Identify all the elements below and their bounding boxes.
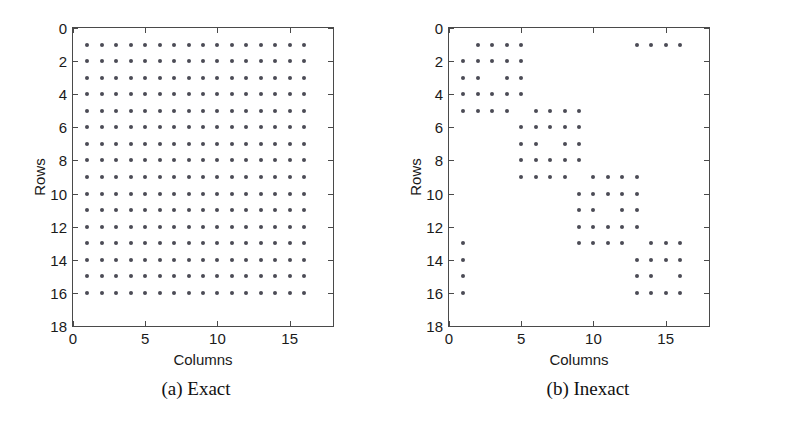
x-tick-label: 15 (281, 331, 298, 346)
sparsity-dot (678, 291, 682, 295)
sparsity-dot (591, 192, 595, 196)
sparsity-dot (244, 258, 248, 262)
sparsity-dot (187, 59, 191, 63)
sparsity-dot (114, 175, 118, 179)
y-tick-mark-right (704, 260, 709, 261)
sparsity-dot (215, 43, 219, 47)
sparsity-dot (201, 109, 205, 113)
sparsity-dot (114, 192, 118, 196)
sparsity-dot (302, 291, 306, 295)
sparsity-dot (461, 76, 465, 80)
sparsity-dot (129, 241, 133, 245)
sparsity-dot (201, 291, 205, 295)
sparsity-dot (606, 175, 610, 179)
y-tick-mark (73, 127, 78, 128)
sparsity-dot (519, 43, 523, 47)
y-tick-mark (449, 94, 454, 95)
sparsity-dot (302, 76, 306, 80)
y-tick-mark-right (704, 160, 709, 161)
y-tick-label: 0 (435, 21, 443, 36)
y-tick-label: 8 (59, 153, 67, 168)
sparsity-dot (288, 142, 292, 146)
sparsity-dot (215, 208, 219, 212)
sparsity-dot (519, 158, 523, 162)
y-tick-label: 2 (59, 54, 67, 69)
sparsity-dot (143, 241, 147, 245)
sparsity-dot (519, 59, 523, 63)
sparsity-dot (230, 225, 234, 229)
sparsity-dot (259, 225, 263, 229)
sparsity-dot (114, 125, 118, 129)
sparsity-dot (172, 175, 176, 179)
y-tick-mark-right (328, 293, 333, 294)
sparsity-dot (534, 109, 538, 113)
y-tick-mark (449, 127, 454, 128)
sparsity-dot (490, 59, 494, 63)
sparsity-dot (230, 192, 234, 196)
sparsity-dot (215, 59, 219, 63)
sparsity-dot (230, 208, 234, 212)
plot-area-inexact: Rows Columns 024681012141618051015 (448, 27, 710, 327)
sparsity-dot (114, 291, 118, 295)
sparsity-dot (635, 192, 639, 196)
sparsity-dot (187, 291, 191, 295)
sparsity-dot (244, 208, 248, 212)
x-tick-label: 0 (445, 331, 453, 346)
sparsity-dot (273, 59, 277, 63)
sparsity-dot (230, 43, 234, 47)
sparsity-dot (244, 92, 248, 96)
sparsity-dot (158, 192, 162, 196)
sparsity-dot (244, 142, 248, 146)
sparsity-dot (577, 142, 581, 146)
sparsity-dot (244, 225, 248, 229)
y-tick-mark-right (328, 61, 333, 62)
sparsity-dot (288, 43, 292, 47)
sparsity-dot (288, 291, 292, 295)
sparsity-dot (158, 225, 162, 229)
sparsity-dot (302, 92, 306, 96)
sparsity-dot (172, 109, 176, 113)
x-tick-mark-top (449, 28, 450, 33)
sparsity-dot (85, 59, 89, 63)
sparsity-dot (230, 92, 234, 96)
sparsity-dot (664, 291, 668, 295)
sparsity-dot (187, 274, 191, 278)
panel-exact: Rows Columns 024681012141618051015 (a) E… (0, 0, 392, 426)
sparsity-dot (664, 241, 668, 245)
sparsity-dot (215, 158, 219, 162)
sparsity-dot (259, 92, 263, 96)
sparsity-dot (505, 59, 509, 63)
sparsity-dot (563, 142, 567, 146)
sparsity-dot (143, 59, 147, 63)
sparsity-dot (302, 59, 306, 63)
sparsity-dot (158, 274, 162, 278)
y-tick-mark-right (704, 326, 709, 327)
sparsity-dot (100, 225, 104, 229)
sparsity-dot (172, 59, 176, 63)
sparsity-dot (172, 274, 176, 278)
x-tick-label: 5 (517, 331, 525, 346)
y-tick-label: 14 (50, 252, 67, 267)
sparsity-dot (620, 192, 624, 196)
sparsity-dot (490, 43, 494, 47)
sparsity-dot (259, 43, 263, 47)
sparsity-dot (85, 258, 89, 262)
sparsity-dot (114, 59, 118, 63)
x-tick-mark (449, 321, 450, 326)
sparsity-dot (244, 43, 248, 47)
sparsity-dot (158, 175, 162, 179)
sparsity-dot (85, 274, 89, 278)
y-tick-mark-right (704, 127, 709, 128)
sparsity-dot (187, 125, 191, 129)
sparsity-dot (201, 125, 205, 129)
y-tick-label: 2 (435, 54, 443, 69)
caption-exact: (a) Exact (0, 378, 392, 400)
sparsity-dot (114, 92, 118, 96)
sparsity-dot (534, 142, 538, 146)
sparsity-dot (85, 291, 89, 295)
y-tick-mark (449, 61, 454, 62)
sparsity-dot (505, 43, 509, 47)
x-tick-mark (217, 321, 218, 326)
sparsity-dot (201, 92, 205, 96)
sparsity-dot (259, 142, 263, 146)
